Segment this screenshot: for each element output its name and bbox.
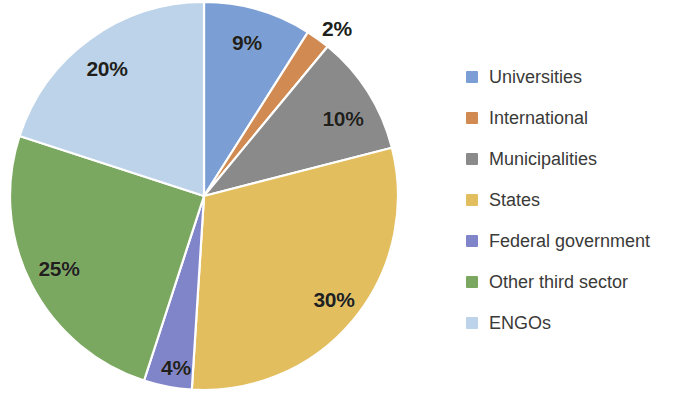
pie-chart: 9%2%10%30%4%25%20% UniversitiesInternati… (0, 0, 692, 394)
pie-data-label: 10% (322, 108, 363, 129)
legend-item-label: ENGOs (489, 314, 551, 332)
legend-item[interactable]: Universities (466, 56, 692, 97)
pie-data-label: 9% (232, 32, 262, 53)
legend-color-swatch-icon (466, 317, 478, 329)
pie-data-label: 2% (322, 18, 352, 39)
legend-item[interactable]: ENGOs (466, 302, 692, 343)
pie-data-label: 20% (86, 58, 127, 79)
legend-color-swatch-icon (466, 276, 478, 288)
legend-color-swatch-icon (466, 71, 478, 83)
legend-item-label: Municipalities (489, 150, 597, 168)
pie-data-label: 25% (38, 258, 79, 279)
legend-item[interactable]: International (466, 97, 692, 138)
legend-item[interactable]: States (466, 179, 692, 220)
legend-item-label: States (489, 191, 540, 209)
legend-item-label: Federal government (489, 232, 650, 250)
pie-plot-area: 9%2%10%30%4%25%20% (0, 0, 440, 394)
legend-color-swatch-icon (466, 153, 478, 165)
legend-color-swatch-icon (466, 235, 478, 247)
pie-data-label: 4% (161, 357, 191, 378)
legend-color-swatch-icon (466, 194, 478, 206)
legend-item-label: Universities (489, 68, 582, 86)
legend-item-label: Other third sector (489, 273, 628, 291)
legend-item[interactable]: Federal government (466, 220, 692, 261)
pie-data-label: 30% (313, 289, 354, 310)
legend-color-swatch-icon (466, 112, 478, 124)
pie-slice-group (10, 2, 398, 390)
legend-item[interactable]: Municipalities (466, 138, 692, 179)
pie-svg (0, 0, 440, 394)
legend-item-label: International (489, 109, 588, 127)
chart-legend: UniversitiesInternationalMunicipalitiesS… (466, 56, 692, 343)
legend-item[interactable]: Other third sector (466, 261, 692, 302)
